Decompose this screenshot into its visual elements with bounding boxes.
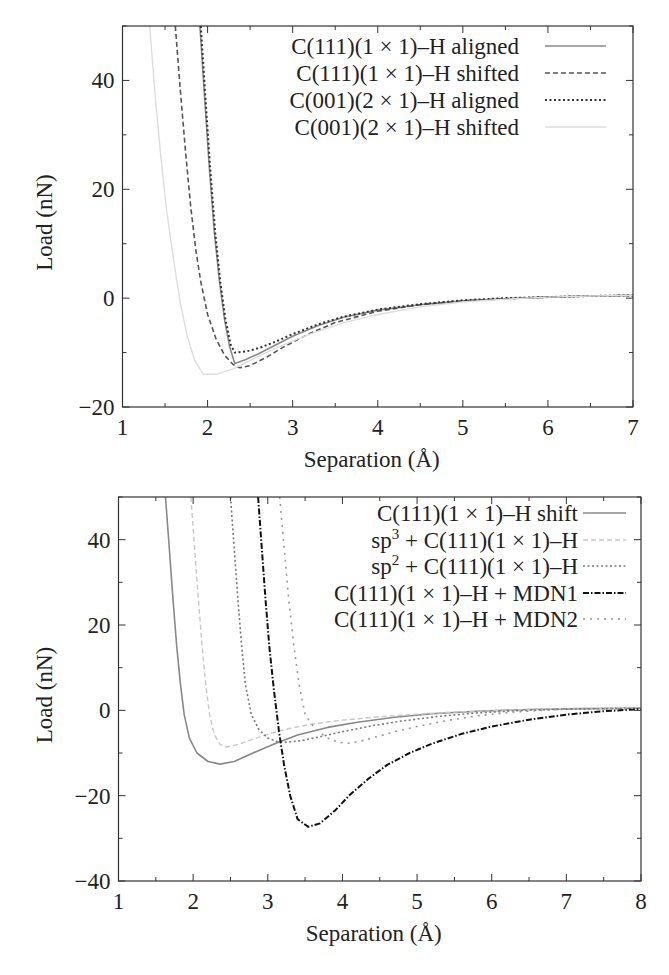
chart-canvas: 1234567−2002040Separation (Å)Load (nN)C(… bbox=[0, 0, 669, 975]
y-tick-label: 20 bbox=[88, 613, 111, 638]
x-tick-label: 7 bbox=[627, 415, 639, 440]
x-tick-label: 4 bbox=[337, 889, 349, 914]
y-tick-label: −20 bbox=[79, 395, 115, 420]
legend-entry-label: C(111)(1 × 1)–H + MDN1 bbox=[334, 581, 578, 606]
x-axis-label: Separation (Å) bbox=[306, 921, 442, 946]
legend-entry-label: C(111)(1 × 1)–H aligned bbox=[291, 34, 519, 59]
y-tick-label: 40 bbox=[88, 528, 111, 553]
x-tick-label: 5 bbox=[411, 889, 423, 914]
legend-entry-label: C(111)(1 × 1)–H shift bbox=[377, 501, 579, 526]
x-tick-label: 1 bbox=[117, 415, 129, 440]
legend-entry-label: C(001)(2 × 1)–H aligned bbox=[289, 88, 519, 113]
x-tick-label: 1 bbox=[113, 889, 125, 914]
x-tick-label: 3 bbox=[287, 415, 299, 440]
x-tick-label: 6 bbox=[486, 889, 498, 914]
legend-entry-label: C(111)(1 × 1)–H + MDN2 bbox=[334, 607, 578, 632]
x-tick-label: 2 bbox=[187, 889, 199, 914]
x-axis-label: Separation (Å) bbox=[304, 447, 440, 472]
x-tick-label: 7 bbox=[561, 889, 573, 914]
legend: C(111)(1 × 1)–H shiftsp3 + C(111)(1 × 1)… bbox=[334, 501, 626, 632]
x-tick-label: 4 bbox=[372, 415, 384, 440]
legend-entry-label: C(111)(1 × 1)–H shifted bbox=[296, 61, 519, 86]
legend-entry-label: C(001)(2 × 1)–H shifted bbox=[295, 115, 520, 140]
x-tick-label: 2 bbox=[202, 415, 214, 440]
legend-entry-label: sp3 + C(111)(1 × 1)–H bbox=[371, 526, 578, 553]
top-plot-adhesion-load: 1234567−2002040Separation (Å)Load (nN)C(… bbox=[32, 26, 639, 472]
x-tick-label: 8 bbox=[635, 889, 647, 914]
x-tick-label: 3 bbox=[262, 889, 274, 914]
legend: C(111)(1 × 1)–H alignedC(111)(1 × 1)–H s… bbox=[289, 34, 606, 140]
legend-entry-label: sp2 + C(111)(1 × 1)–H bbox=[371, 552, 578, 579]
y-tick-label: 20 bbox=[92, 177, 115, 202]
y-tick-label: 40 bbox=[92, 68, 115, 93]
y-axis-label: Load (nN) bbox=[32, 174, 57, 270]
x-tick-label: 6 bbox=[542, 415, 554, 440]
x-tick-label: 5 bbox=[457, 415, 469, 440]
y-tick-label: 0 bbox=[103, 286, 115, 311]
y-tick-label: −20 bbox=[75, 784, 111, 809]
y-tick-label: −40 bbox=[75, 869, 111, 894]
bottom-plot-adhesion-load: 12345678−40−2002040Separation (Å)Load (n… bbox=[32, 497, 647, 946]
y-tick-label: 0 bbox=[99, 698, 111, 723]
y-axis-label: Load (nN) bbox=[32, 647, 57, 743]
